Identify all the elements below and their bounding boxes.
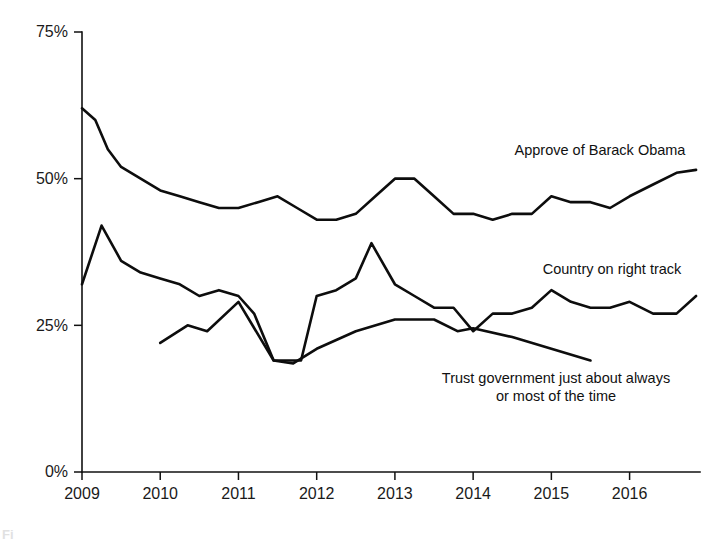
x-tick-label: 2014	[455, 485, 491, 502]
x-tick-label: 2012	[299, 485, 335, 502]
series-line	[82, 108, 696, 219]
x-tick-label: 2015	[534, 485, 570, 502]
chart-container: 0%25%50%75% 2009201020112012201320142015…	[0, 0, 717, 541]
x-tick-label: 2009	[64, 485, 100, 502]
annotation-line: Approve of Barack Obama	[515, 142, 687, 158]
y-tick-label: 75%	[36, 23, 68, 40]
series-line	[160, 302, 590, 364]
series-annotation-trust-government: Trust government just about alwaysor mos…	[442, 370, 670, 404]
series-line	[82, 226, 696, 361]
x-tick-label: 2013	[377, 485, 413, 502]
series-annotation-country-on-right-track: Country on right track	[543, 261, 682, 277]
x-tick-label: 2011	[221, 485, 256, 502]
x-tick-label: 2010	[142, 485, 178, 502]
cropped-caption-text: Fi	[2, 529, 14, 541]
x-tick-group: 20092010201120122013201420152016	[64, 472, 647, 502]
y-tick-label: 25%	[36, 317, 68, 334]
annotation-line: or most of the time	[496, 388, 616, 404]
y-tick-group: 0%25%50%75%	[36, 23, 82, 480]
chart-axes	[82, 32, 700, 472]
line-chart: 0%25%50%75% 2009201020112012201320142015…	[0, 0, 717, 541]
annotation-group: Approve of Barack ObamaCountry on right …	[442, 142, 687, 404]
annotation-line: Country on right track	[543, 261, 682, 277]
series-annotation-approve-of-barack-obama: Approve of Barack Obama	[515, 142, 687, 158]
y-tick-label: 0%	[45, 463, 68, 480]
x-tick-label: 2016	[612, 485, 648, 502]
annotation-line: Trust government just about always	[442, 370, 670, 386]
y-tick-label: 50%	[36, 170, 68, 187]
